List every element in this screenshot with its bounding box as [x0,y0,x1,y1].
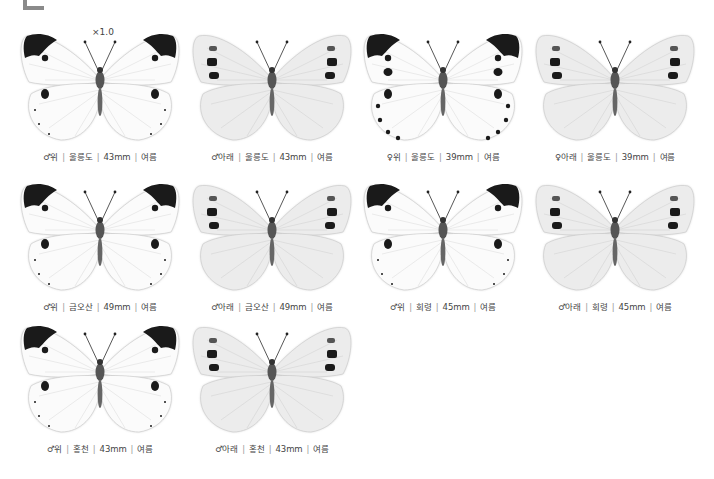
caption-separator: | [62,152,65,162]
specimen-card-6: ♂아래|금오산|49mm|여름 [187,178,357,312]
collection-location: 금오산 [69,302,93,312]
season: 여름 [141,152,157,162]
season: 여름 [656,302,672,312]
collection-location: 울릉도 [69,152,93,162]
caption-separator: | [615,152,618,162]
specimen-caption: ♀아래|울릉도|39mm|여름 [530,150,700,162]
butterfly-image [358,28,528,146]
collection-location: 회령 [416,302,432,312]
collection-location: 회령 [592,302,608,312]
collection-location: 금오산 [245,302,269,312]
wing-side: 아래 [218,152,234,162]
caption-separator: | [97,152,100,162]
butterfly-image [15,320,185,438]
caption-separator: | [585,302,588,312]
butterfly-image [187,28,357,146]
specimen-caption: ♀위|울릉도|39mm|여름 [358,150,528,162]
caption-separator: | [474,302,477,312]
caption-separator: | [238,152,241,162]
caption-separator: | [409,302,412,312]
caption-separator: | [269,444,272,454]
season: 여름 [317,152,333,162]
wingspan-size: 39mm [446,152,473,162]
butterfly-image [358,178,528,296]
specimen-caption: ♂위|홍천|43mm|여름 [15,442,185,454]
collection-location: 울릉도 [587,152,611,162]
specimen-card-5: ♂위|금오산|49mm|여름 [15,178,185,312]
wing-side: 아래 [561,152,577,162]
specimen-caption: ♂아래|홍천|43mm|여름 [187,442,357,454]
wingspan-size: 45mm [443,302,470,312]
butterfly-image [15,28,185,146]
season: 여름 [317,302,333,312]
collection-location: 울릉도 [411,152,435,162]
caption-separator: | [135,152,138,162]
caption-separator: | [135,302,138,312]
specimen-card-3: ♀위|울릉도|39mm|여름 [358,28,528,162]
wingspan-size: 43mm [280,152,307,162]
caption-separator: | [62,302,65,312]
caption-separator: | [477,152,480,162]
season: 여름 [137,444,153,454]
caption-separator: | [439,152,442,162]
specimen-caption: ♂위|금오산|49mm|여름 [15,300,185,312]
specimen-caption: ♂위|회령|45mm|여름 [358,300,528,312]
season: 여름 [313,444,329,454]
caption-separator: | [436,302,439,312]
caption-separator: | [131,444,134,454]
wingspan-size: 43mm [276,444,303,454]
caption-separator: | [310,302,313,312]
caption-separator: | [650,302,653,312]
caption-separator: | [93,444,96,454]
wing-side: 위 [397,302,405,312]
wing-side: 위 [393,152,401,162]
caption-separator: | [653,152,656,162]
butterfly-image [530,28,700,146]
wingspan-size: 43mm [100,444,127,454]
caption-separator: | [581,152,584,162]
wing-side: 위 [54,444,62,454]
specimen-card-1: ♂위|울릉도|43mm|여름 [15,28,185,162]
season: 여름 [484,152,500,162]
butterfly-image [187,320,357,438]
wing-side: 위 [50,302,58,312]
specimen-card-4: ♀아래|울릉도|39mm|여름 [530,28,700,162]
specimen-card-7: ♂위|회령|45mm|여름 [358,178,528,312]
specimen-caption: ♂아래|금오산|49mm|여름 [187,300,357,312]
season: 여름 [660,152,676,162]
caption-separator: | [273,302,276,312]
specimen-card-2: ♂아래|울릉도|43mm|여름 [187,28,357,162]
specimen-card-9: ♂위|홍천|43mm|여름 [15,320,185,454]
wing-side: 위 [50,152,58,162]
caption-separator: | [307,444,310,454]
caption-separator: | [97,302,100,312]
caption-separator: | [238,302,241,312]
section-bracket-mark [23,0,44,10]
season: 여름 [480,302,496,312]
caption-separator: | [612,302,615,312]
caption-separator: | [405,152,408,162]
collection-location: 울릉도 [245,152,269,162]
wing-side: 아래 [222,444,238,454]
butterfly-image [530,178,700,296]
butterfly-image [15,178,185,296]
specimen-caption: ♂아래|울릉도|43mm|여름 [187,150,357,162]
caption-separator: | [273,152,276,162]
wingspan-size: 43mm [104,152,131,162]
wingspan-size: 39mm [622,152,649,162]
specimen-card-10: ♂아래|홍천|43mm|여름 [187,320,357,454]
wing-side: 아래 [565,302,581,312]
specimen-caption: ♂아래|회령|45mm|여름 [530,300,700,312]
caption-separator: | [66,444,69,454]
season: 여름 [141,302,157,312]
wingspan-size: 49mm [104,302,131,312]
collection-location: 홍천 [73,444,89,454]
caption-separator: | [242,444,245,454]
wingspan-size: 45mm [619,302,646,312]
caption-separator: | [310,152,313,162]
collection-location: 홍천 [249,444,265,454]
specimen-card-8: ♂아래|회령|45mm|여름 [530,178,700,312]
wing-side: 아래 [218,302,234,312]
specimen-caption: ♂위|울릉도|43mm|여름 [15,150,185,162]
wingspan-size: 49mm [280,302,307,312]
